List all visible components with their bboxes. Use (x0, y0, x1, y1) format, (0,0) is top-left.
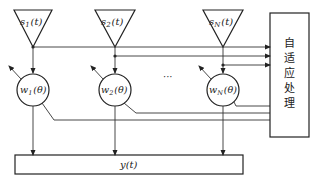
svg-text:处: 处 (284, 82, 295, 95)
svg-text:自: 自 (284, 37, 295, 50)
source-sN-triangle: sN(t) (203, 10, 243, 47)
weight-wN-circle: wN(θ) (199, 66, 239, 106)
source-s2-triangle: s2(t) (95, 10, 135, 47)
source-feed-lines (31, 45, 270, 66)
adaptive-control-lines (42, 102, 270, 120)
output-label: y(t) (119, 159, 138, 170)
source-to-weight-lines (33, 47, 223, 73)
svg-text:w1(θ): w1(θ) (20, 84, 47, 97)
svg-text:适: 适 (284, 52, 295, 65)
weight-w2-circle: w2(θ) (91, 66, 131, 106)
source-s1-triangle: s1(t) (14, 10, 52, 47)
svg-text:w2(θ): w2(θ) (101, 84, 128, 97)
output-box: y(t) (15, 155, 243, 174)
svg-text:理: 理 (284, 97, 295, 110)
svg-text:应: 应 (284, 66, 295, 80)
svg-text:wN(θ): wN(θ) (209, 84, 237, 97)
adaptive-beamformer-diagram: s1(t) s2(t) sN(t) w1(θ) (0, 0, 317, 181)
weight-w1-circle: w1(θ) (9, 66, 49, 106)
ellipsis: ··· (163, 71, 173, 82)
adaptive-processing-box: 自 适 应 处 理 (270, 13, 309, 137)
